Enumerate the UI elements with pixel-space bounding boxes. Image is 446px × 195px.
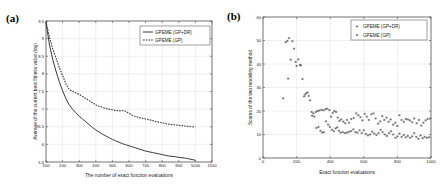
svg-text:GPEME (GP+DR): GPEME (GP+DR) <box>155 30 192 35</box>
panel-b-x-axis-label: Exact function evaluations <box>319 170 375 175</box>
svg-text:800: 800 <box>159 163 167 168</box>
panel-a-plot: 10020030040050060070080090010001100 5.56… <box>0 0 223 195</box>
svg-text:9: 9 <box>42 36 45 41</box>
svg-text:1000: 1000 <box>426 159 436 164</box>
svg-text:0: 0 <box>262 159 265 164</box>
panel-a-y-axis-label: Average of the current best fitness valu… <box>33 43 38 140</box>
panel-b: (b) 02004006008001000 0102030405060 GPEM… <box>223 0 446 195</box>
svg-text:200: 200 <box>59 163 67 168</box>
svg-text:800: 800 <box>394 159 402 164</box>
svg-text:200: 200 <box>293 159 301 164</box>
svg-text:400: 400 <box>327 159 335 164</box>
panel-b-y-ticklabels: 0102030405060 <box>257 15 262 161</box>
panel-b-legend[interactable]: GPEME (GP+DR)GPEME (GP) <box>351 20 427 40</box>
panel-b-y-axis-label: Scores of the two modeling method <box>248 50 253 126</box>
svg-text:GPEME (GP+DR): GPEME (GP+DR) <box>363 24 400 29</box>
svg-text:8: 8 <box>42 71 45 76</box>
svg-text:6.5: 6.5 <box>38 124 44 129</box>
svg-text:8.5: 8.5 <box>38 54 44 59</box>
svg-text:7: 7 <box>42 107 45 112</box>
panel-a-y-ticklabels: 5.566.577.588.599.5 <box>38 19 44 165</box>
panel-a-x-ticklabels: 10020030040050060070080090010001100 <box>43 163 218 168</box>
svg-text:300: 300 <box>76 163 84 168</box>
svg-text:GPEME (GP): GPEME (GP) <box>155 38 183 43</box>
svg-text:5.5: 5.5 <box>38 160 44 165</box>
panel-b-scatter-points <box>282 37 432 140</box>
panel-a-x-axis-label: The number of exact function evaluations <box>85 173 173 178</box>
svg-text:1100: 1100 <box>207 163 217 168</box>
svg-text:60: 60 <box>257 15 262 20</box>
svg-text:700: 700 <box>142 163 150 168</box>
svg-text:6: 6 <box>42 142 45 147</box>
svg-text:900: 900 <box>175 163 183 168</box>
svg-text:600: 600 <box>126 163 134 168</box>
svg-text:600: 600 <box>360 159 368 164</box>
svg-text:GPEME (GP): GPEME (GP) <box>363 33 391 38</box>
svg-text:10: 10 <box>257 132 262 137</box>
svg-text:1000: 1000 <box>191 163 201 168</box>
panel-b-plot: 02004006008001000 0102030405060 GPEME (G… <box>223 0 446 195</box>
panel-b-x-ticklabels: 02004006008001000 <box>262 159 436 164</box>
svg-text:500: 500 <box>109 163 117 168</box>
svg-text:9.5: 9.5 <box>38 19 44 24</box>
svg-text:7.5: 7.5 <box>38 89 44 94</box>
panel-a-legend[interactable]: GPEME (GP+DR)GPEME (GP) <box>140 26 210 45</box>
svg-text:50: 50 <box>257 38 262 43</box>
svg-text:20: 20 <box>257 109 262 114</box>
panel-a: (a) 10020030040050060070080090010001100 … <box>0 0 223 195</box>
svg-text:400: 400 <box>92 163 100 168</box>
figure-container: (a) 10020030040050060070080090010001100 … <box>0 0 446 195</box>
svg-text:30: 30 <box>257 85 262 90</box>
svg-text:40: 40 <box>257 62 262 67</box>
